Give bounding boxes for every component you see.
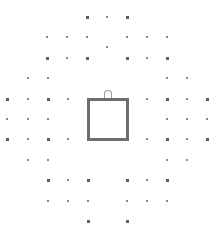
dot-marker [126, 57, 129, 60]
dot-marker [186, 138, 188, 140]
dot-marker [166, 138, 169, 141]
dot-marker [106, 46, 108, 48]
dot-marker [86, 57, 89, 60]
dot-marker [67, 98, 69, 100]
dot-marker [67, 138, 69, 140]
dot-marker [146, 200, 148, 202]
dot-marker [27, 98, 29, 100]
dot-marker [6, 138, 9, 141]
dot-marker [86, 16, 89, 19]
dot-marker [186, 77, 188, 79]
dot-marker [47, 159, 49, 161]
dot-marker [27, 138, 29, 140]
dot-marker [166, 98, 169, 101]
dot-marker [166, 36, 168, 38]
dot-grid-diagram [0, 0, 210, 237]
dot-marker [106, 16, 108, 18]
dot-marker [166, 77, 168, 79]
dot-marker [166, 57, 169, 60]
dot-marker [146, 36, 148, 38]
dot-marker [166, 159, 168, 161]
dot-marker [206, 98, 209, 101]
dot-marker [46, 36, 48, 38]
dot-marker [27, 159, 29, 161]
dot-marker [27, 77, 29, 79]
dot-marker [87, 220, 90, 223]
dot-marker [126, 16, 129, 19]
dot-marker [146, 179, 148, 181]
dot-marker [47, 138, 50, 141]
dot-marker [67, 179, 69, 181]
dot-marker [47, 77, 49, 79]
dot-marker [6, 118, 8, 120]
dot-marker [186, 98, 188, 100]
dot-marker [47, 200, 49, 202]
dot-marker [67, 200, 69, 202]
dot-marker [206, 118, 208, 120]
center-square [87, 98, 129, 141]
dot-marker [146, 57, 148, 59]
dot-marker [66, 57, 68, 59]
dot-marker [206, 138, 209, 141]
dot-marker [47, 98, 50, 101]
dot-marker [186, 118, 188, 120]
dot-marker [186, 159, 188, 161]
dot-marker [86, 36, 88, 38]
dot-marker [46, 57, 49, 60]
dot-marker [126, 220, 129, 223]
dot-marker [126, 179, 129, 182]
dot-marker [47, 118, 49, 120]
dot-marker [166, 179, 169, 182]
dot-marker [27, 118, 29, 120]
dot-marker [126, 36, 128, 38]
dot-marker [146, 138, 148, 140]
dot-marker [87, 200, 89, 202]
dot-marker [146, 98, 148, 100]
dot-marker [47, 179, 50, 182]
dot-marker [87, 179, 90, 182]
dot-marker [166, 118, 168, 120]
dot-marker [6, 98, 9, 101]
dot-marker [126, 200, 128, 202]
dot-marker [66, 36, 68, 38]
dot-marker [166, 200, 168, 202]
